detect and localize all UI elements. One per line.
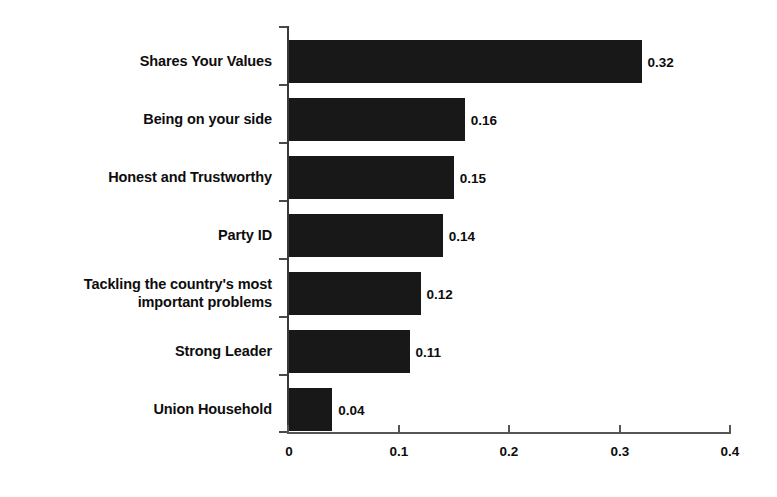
- y-axis-tick: [279, 258, 287, 260]
- category-label-honest-and-trustworthy: Honest and Trustworthy: [108, 168, 272, 186]
- y-axis-tick: [279, 316, 287, 318]
- y-axis-tick: [279, 142, 287, 144]
- bar-tackling-problems: [288, 272, 421, 315]
- y-axis-tick: [279, 431, 287, 433]
- bar-honest-and-trustworthy: [288, 156, 454, 199]
- value-label-tackling-problems: 0.12: [427, 286, 453, 301]
- y-axis: [287, 26, 289, 433]
- y-axis-tick: [279, 200, 287, 202]
- x-axis-tick-label-0-2: 0.2: [500, 444, 519, 459]
- bar-strong-leader: [288, 330, 410, 373]
- bar-shares-your-values: [288, 40, 642, 83]
- x-axis-tick: [619, 425, 621, 432]
- value-label-union-household: 0.04: [338, 402, 364, 417]
- value-label-honest-and-trustworthy: 0.15: [460, 170, 486, 185]
- category-label-shares-your-values: Shares Your Values: [140, 52, 272, 70]
- plot-area: 0.32 0.16 0.15 0.14 0.12 0.11 0.04: [288, 26, 730, 432]
- y-axis-tick: [279, 84, 287, 86]
- y-axis-tick: [279, 374, 287, 376]
- x-axis-tick-label-0: 0: [285, 444, 293, 459]
- bar-union-household: [288, 388, 332, 431]
- value-label-strong-leader: 0.11: [416, 344, 442, 359]
- category-label-party-id: Party ID: [218, 226, 272, 244]
- x-axis-tick: [398, 425, 400, 432]
- x-axis-tick: [508, 425, 510, 432]
- bar-being-on-your-side: [288, 98, 465, 141]
- x-axis-tick-label-0-3: 0.3: [611, 444, 630, 459]
- x-axis-tick-label-0-4: 0.4: [721, 444, 740, 459]
- x-axis: [287, 432, 731, 434]
- bar-party-id: [288, 214, 443, 257]
- category-label-strong-leader: Strong Leader: [175, 342, 272, 360]
- value-label-being-on-your-side: 0.16: [471, 112, 497, 127]
- x-axis-tick: [729, 425, 731, 432]
- value-label-shares-your-values: 0.32: [648, 54, 674, 69]
- x-axis-tick-label-0-1: 0.1: [390, 444, 409, 459]
- category-label-being-on-your-side: Being on your side: [143, 110, 272, 128]
- category-label-tackling-problems: Tackling the country's most important pr…: [84, 275, 272, 311]
- value-label-party-id: 0.14: [449, 228, 475, 243]
- y-axis-tick: [279, 26, 287, 28]
- x-axis-tick: [287, 425, 289, 432]
- category-label-union-household: Union Household: [153, 400, 272, 418]
- bar-chart: Shares Your Values Being on your side Ho…: [0, 0, 777, 497]
